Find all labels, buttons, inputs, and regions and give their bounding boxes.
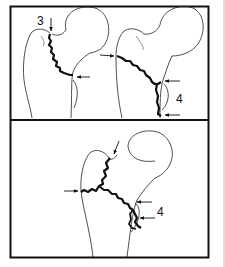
- label-4: 4: [176, 92, 183, 106]
- trochanteric-notch: [110, 155, 117, 159]
- medial-cortex-outline: [71, 53, 90, 118]
- head-neck-junction: [128, 147, 155, 161]
- lateral-cortex-outline: [116, 29, 144, 118]
- fracture-line: [49, 34, 73, 75]
- arrow-icon: [114, 141, 119, 154]
- lesser-trochanter-outline: [162, 84, 168, 110]
- head-neck-junction: [144, 25, 160, 34]
- panel-top-left: 3: [23, 7, 108, 118]
- lateral-cortex-outline: [23, 29, 50, 118]
- trochanter-detail: [136, 36, 143, 50]
- femoral-head-outline: [160, 6, 203, 56]
- outer-frame: [11, 7, 209, 258]
- lateral-cortex-outline: [81, 150, 110, 257]
- trochanter-detail: [41, 36, 44, 46]
- panel-top-right: 4: [100, 6, 203, 118]
- femur-fracture-diagram: 3 4 4: [0, 0, 225, 267]
- fracture-line: [81, 158, 110, 192]
- label-3: 3: [37, 14, 44, 28]
- arrow-icon: [100, 55, 114, 56]
- femoral-head-outline: [65, 7, 108, 53]
- lesser-trochanter-outline: [73, 80, 77, 108]
- femoral-head-outline: [128, 131, 172, 178]
- label-4: 4: [157, 205, 164, 219]
- fracture-line: [117, 56, 161, 116]
- head-neck-junction: [52, 30, 66, 35]
- panel-bottom: 4: [64, 131, 172, 257]
